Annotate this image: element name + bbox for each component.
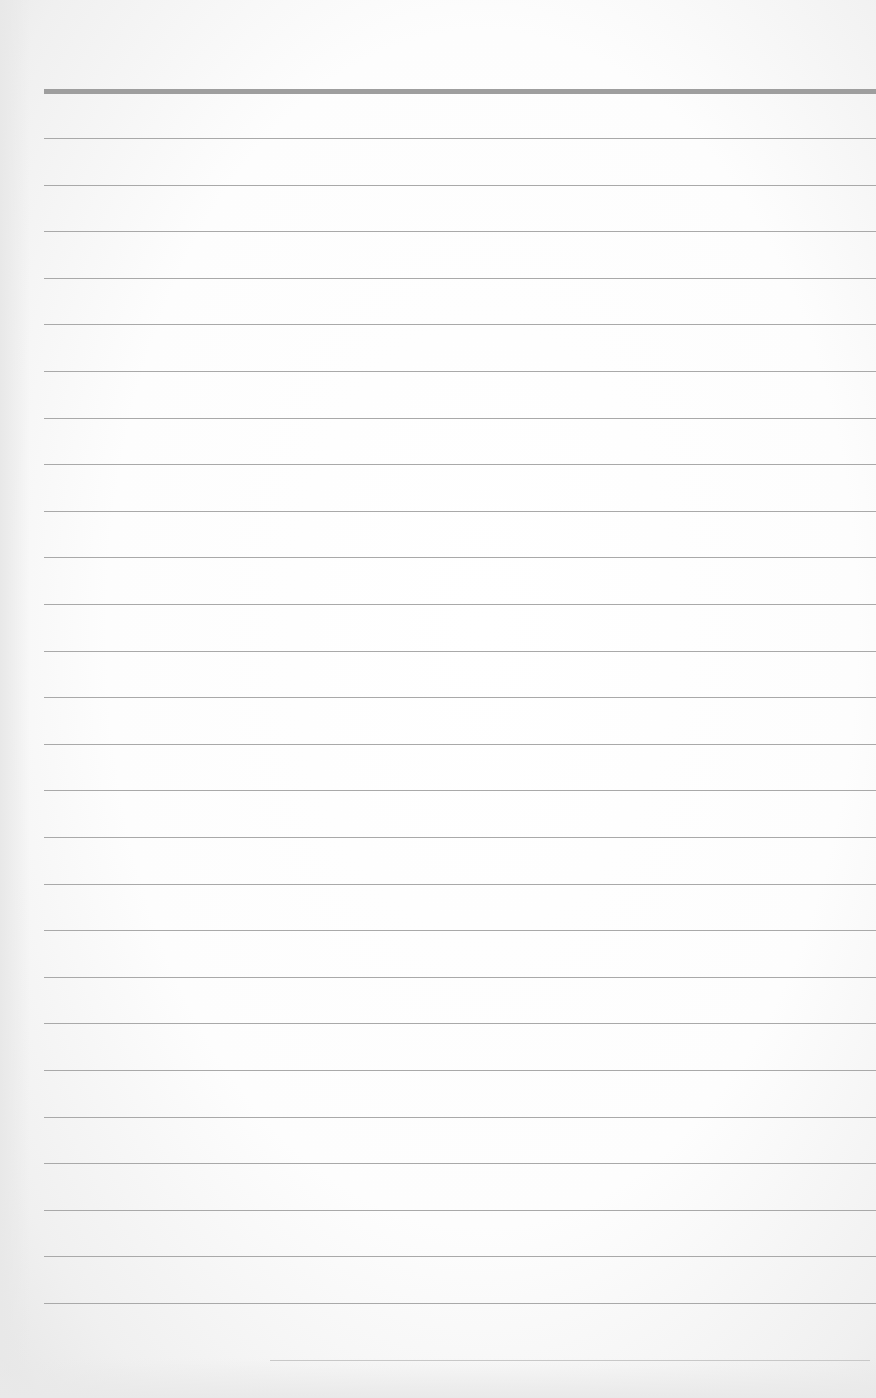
ruled-line [44,651,876,652]
paper-shadow-bottom [0,1358,876,1398]
ruled-line [44,1117,876,1118]
paper-shadow-left [0,0,30,1398]
lined-paper-page [0,0,876,1398]
ruled-line [44,604,876,605]
ruled-line [44,744,876,745]
ruled-line [44,138,876,139]
ruled-line [44,418,876,419]
ruled-line [44,837,876,838]
ruled-line [44,464,876,465]
ruled-line [44,1163,876,1164]
ruled-line [44,884,876,885]
ruled-line [44,1303,876,1304]
ruled-line [44,790,876,791]
ruled-line [44,185,876,186]
ruled-line [44,977,876,978]
ruled-line [44,371,876,372]
ruled-line [44,324,876,325]
ruled-line [44,278,876,279]
header-rule [44,89,876,94]
ruled-line [44,1070,876,1071]
ruled-line [44,697,876,698]
ruled-line [44,1023,876,1024]
ruled-line [44,1210,876,1211]
ruled-line [44,1256,876,1257]
ruled-line [44,557,876,558]
footer-rule [270,1360,870,1361]
ruled-line [44,930,876,931]
ruled-line [44,231,876,232]
ruled-line [44,511,876,512]
